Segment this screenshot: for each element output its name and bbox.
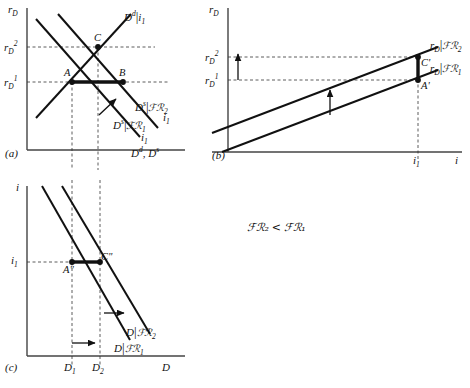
panel-a-ytick-1: rD1 [4,75,17,90]
panel-c-y-axis-label: i [16,182,19,193]
panel-a-x-axis-label: Dd, Ds [131,146,159,159]
diagram-svg [0,0,470,388]
panel-c-tag: (c) [5,362,17,373]
panel-a-supply-fr1-i-label: i1 [141,132,148,146]
panel-c-ytick-i1: i1 [11,255,18,269]
panel-a-demand-curve [36,14,131,118]
panel-c-axes [27,186,185,356]
panel-b-point-c-prime: C' [421,58,430,69]
panel-a-tag: (a) [5,148,18,159]
panel-c-xtick-d1: D1 [64,362,76,376]
panel-a-y-axis-label: rD [8,4,18,18]
panel-b-tag: (b) [212,150,225,161]
panel-b-curve-fr2 [212,47,438,133]
panel-b-y-axis-label: rD [209,4,219,18]
panel-c-point-a-dprime: A" [63,265,74,276]
center-note: ℱℛ₂ < ℱℛ₁ [247,222,305,233]
panel-a-supply-fr2-i-label: i1 [163,112,170,126]
panel-c-curve-fr1-label: D|ℱℛ1 [114,341,144,357]
panel-c-x-axis-label: D [162,362,170,373]
panel-b-point-a-prime: A' [421,81,430,92]
panel-b-gridlines [228,57,418,160]
panel-a-ytick-2: rD2 [4,40,17,55]
panel-a-axes [27,8,185,150]
panel-a-demand-curve-label: Dd|i1 [124,10,145,26]
panel-b-x-axis-label: i [455,155,458,166]
panel-b-ytick-1: rD1 [205,73,218,88]
panel-a-point-b: B [119,68,125,79]
panel-a-point-a: A [64,68,70,79]
panel-b-curve-fr2-label: rD|ℱℛ2 [430,38,461,54]
panel-c-curve-fr2-label: D|ℱℛ2 [126,325,156,341]
panel-a-point-c: C [94,33,101,44]
figure-canvas: rD rD2 rD1 Dd, Ds (a) A B C Dd|i1 Ds|ℱℛ2… [0,0,470,388]
panel-c-xtick-d2: D2 [92,362,104,376]
panel-b-xtick-i1: i1 [413,155,420,169]
panel-b-ytick-2: rD2 [205,50,218,65]
panel-b-curve-fr1-label: rD|ℱℛ1 [430,61,461,77]
panel-c-point-c-dprime: C" [101,252,112,263]
